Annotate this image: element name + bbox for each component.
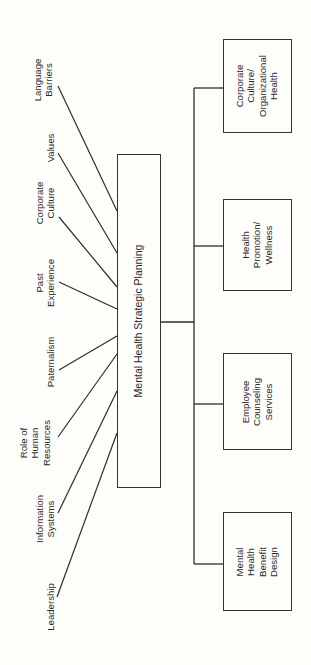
factor-label-values: Values — [45, 134, 56, 163]
factor-line-information-systems — [58, 391, 117, 513]
factor-label-leadership: Leadership — [45, 583, 56, 630]
factor-label-past-experience: Past Experience — [34, 259, 57, 307]
central-box-mental-health-strategic-planning: Mental Health Strategic Planning — [117, 154, 161, 488]
factor-line-paternalism — [59, 336, 117, 370]
factor-line-role-of-human-resources — [58, 354, 117, 437]
outcome-label: Mental Health Benefit Design — [234, 547, 279, 577]
factor-label-language-barriers: Language Barriers — [32, 59, 55, 102]
central-box-label: Mental Health Strategic Planning — [133, 245, 144, 398]
factor-label-corporate-culture: Corporate Culture — [34, 182, 57, 225]
factor-label-paternalism: Paternalism — [45, 337, 56, 388]
factor-label-information-systems: Information Systems — [34, 495, 57, 543]
factor-line-language-barriers — [58, 86, 117, 211]
outcome-label: Employee Counseling Services — [240, 377, 274, 425]
outcome-box-mental-health-benefit-design: Mental Health Benefit Design — [223, 512, 292, 611]
factor-line-past-experience — [59, 282, 117, 309]
outcome-box-health-promotion-wellness: Health Promotion/ Wellness — [223, 199, 292, 291]
factor-line-leadership — [57, 433, 117, 597]
factor-label-role-of-human-resources: Role of Human Resources — [18, 420, 52, 466]
outcome-box-employee-counseling-services: Employee Counseling Services — [223, 353, 292, 450]
factor-line-values — [58, 153, 117, 253]
outcome-label: Health Promotion/ Wellness — [240, 222, 274, 268]
outcome-label: Corporate Culture/ Organizational Health — [234, 55, 279, 117]
factor-line-corporate-culture — [59, 217, 117, 287]
outcome-box-corporate-culture-organizational-health: Corporate Culture/ Organizational Health — [223, 39, 292, 133]
